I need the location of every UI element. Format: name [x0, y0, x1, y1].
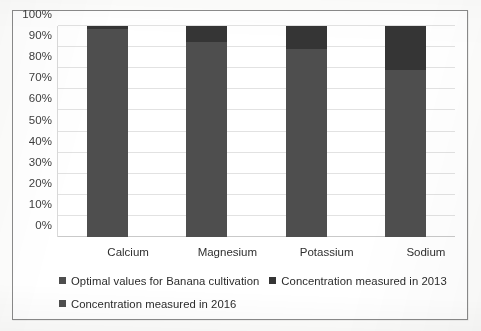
y-tick-label: 70% [29, 71, 52, 83]
y-tick-label: 100% [22, 8, 52, 20]
y-tick-label: 10% [29, 198, 52, 210]
bar-segment[interactable] [186, 42, 227, 237]
bar-segment[interactable] [87, 26, 128, 29]
bar-segment[interactable] [186, 26, 227, 42]
y-tick-label: 40% [29, 135, 52, 147]
chart-frame: 0%10%20%30%40%50%60%70%80%90%100% Calciu… [12, 10, 468, 320]
category-label: Sodium [361, 237, 481, 258]
y-tick-label: 60% [29, 92, 52, 104]
legend-row: Optimal values for Banana cultivationCon… [58, 269, 458, 292]
plot-area: 0%10%20%30%40%50%60%70%80%90%100% Calciu… [58, 26, 455, 237]
bar-segment[interactable] [87, 29, 128, 237]
legend-swatch-icon [269, 277, 276, 284]
bar-segment[interactable] [385, 70, 426, 237]
y-axis-line [57, 26, 58, 237]
bar-segment[interactable] [385, 26, 426, 70]
chart-legend: Optimal values for Banana cultivationCon… [58, 269, 458, 315]
y-tick-label: 30% [29, 156, 52, 168]
scanned-page: 0%10%20%30%40%50%60%70%80%90%100% Calciu… [0, 0, 481, 331]
legend-swatch-icon [59, 300, 66, 307]
y-tick-label: 50% [29, 114, 52, 126]
legend-entry[interactable]: Concentration measured in 2013 [269, 275, 446, 287]
bar-segment[interactable] [286, 49, 327, 237]
legend-label: Optimal values for Banana cultivation [71, 275, 259, 287]
y-tick-label: 0% [35, 219, 52, 231]
y-tick-label: 90% [29, 29, 52, 41]
legend-label: Concentration measured in 2016 [71, 298, 236, 310]
legend-swatch-icon [59, 277, 66, 284]
legend-label: Concentration measured in 2013 [281, 275, 446, 287]
legend-row: Concentration measured in 2016 [58, 292, 458, 315]
legend-entry[interactable]: Concentration measured in 2016 [59, 298, 236, 310]
y-tick-label: 80% [29, 50, 52, 62]
y-tick-label: 20% [29, 177, 52, 189]
legend-entry[interactable]: Optimal values for Banana cultivation [59, 275, 259, 287]
bar-segment[interactable] [286, 26, 327, 49]
